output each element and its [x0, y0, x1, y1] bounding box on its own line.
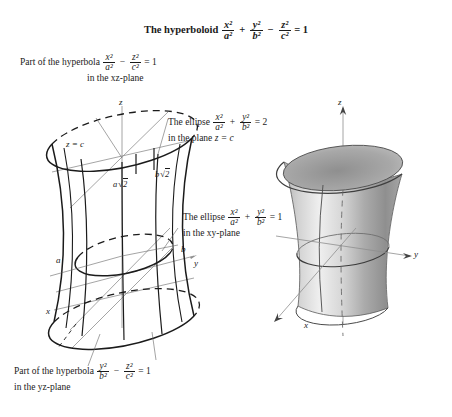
title-term2-denominator: b² [250, 31, 262, 42]
solid-y-arrowhead [403, 253, 412, 259]
title-term-y2-over-b2: y² b² [250, 20, 262, 42]
title-term3-denominator: c² [279, 31, 291, 42]
shaded-hyperboloid [276, 100, 452, 350]
callout-xz-operator: − [118, 57, 126, 67]
wireframe-semi-axis-b-label: b [181, 244, 186, 255]
leader-top-ellipse [158, 119, 168, 154]
callout-yz-term2-den: c² [124, 372, 135, 381]
callout-mid-ellipse-term2: y² b² [255, 208, 266, 228]
sqrt-icon-a: √2 [117, 178, 128, 190]
callout-top-ellipse-term2-den: b² [240, 123, 251, 132]
title-term-z2-over-c2: z² c² [279, 20, 291, 42]
wireframe-plane-z-equals-c-label: z = c [66, 139, 84, 150]
wireframe-y-axis-label: y [194, 258, 198, 269]
title-operator-1: + [238, 24, 247, 35]
figure-title: The hyperboloid x² a² + y² b² − z² c² = … [0, 20, 452, 42]
callout-xz-equals: = 1 [144, 57, 156, 67]
callout-xz-term1: x² a² [103, 53, 114, 73]
callout-xz-hyperbola: Part of the hyperbola x² a² − z² c² = 1 … [20, 53, 157, 85]
wireframe-hyperbola-right [182, 138, 194, 316]
callout-xz-plane: in the xz-plane [87, 73, 143, 83]
solid-z-axis-label: z [338, 97, 342, 108]
callout-yz-line2: in the yz-plane [14, 382, 151, 394]
leader-plane-z-equals-c [96, 118, 122, 158]
callout-xz-term1-den: a² [103, 63, 114, 72]
callout-xz-term2: z² c² [130, 53, 141, 73]
wireframe-bottom-plane-axis-1 [54, 278, 194, 310]
wireframe-hyperboloid [36, 96, 236, 356]
figure-title-prefix: The hyperboloid [144, 24, 218, 35]
b-sqrt2-radicand: 2 [165, 168, 170, 180]
wireframe-semi-axis-a-sqrt2-label: a√2 [113, 178, 128, 190]
title-operator-2: − [266, 24, 275, 35]
callout-xz-line2: in the xz-plane [20, 73, 157, 85]
wireframe-x-axis [70, 228, 170, 330]
callout-mid-ellipse-term2-den: b² [255, 218, 266, 227]
wireframe-ruling-1 [81, 159, 87, 336]
title-term-x2-over-a2: x² a² [222, 20, 234, 42]
callout-xz-prefix: Part of the hyperbola [20, 57, 100, 67]
callout-yz-plane: in the yz-plane [14, 382, 70, 392]
wireframe-mid-ellipse-back [78, 234, 173, 257]
leader-yz-hyperbola-2 [152, 332, 156, 360]
solid-y-axis-label: y [414, 249, 418, 260]
wireframe-x-axis-label: x [46, 306, 50, 317]
callout-xz-line1: Part of the hyperbola x² a² − z² c² = 1 [20, 53, 157, 73]
leader-yz-hyperbola-group [60, 330, 190, 370]
callout-yz-term1-den: b² [97, 372, 108, 381]
title-equals: = 1 [294, 24, 308, 35]
wireframe-ruling-4 [64, 148, 73, 328]
callout-mid-ellipse-operator: + [243, 212, 251, 222]
wireframe-semi-axis-b-sqrt2-label: b√2 [155, 168, 170, 180]
title-term1-denominator: a² [222, 31, 234, 42]
wireframe-z-axis-label: z [119, 97, 123, 108]
callout-top-ellipse-equals: = 2 [255, 117, 267, 127]
leader-yz-hyperbola [88, 334, 100, 366]
callout-top-ellipse-term2: y² b² [240, 113, 251, 133]
wireframe-ruling-5 [172, 144, 182, 322]
figure-canvas: The hyperboloid x² a² + y² b² − z² c² = … [0, 0, 452, 417]
sqrt-icon-b: √2 [159, 168, 170, 180]
callout-xz-term2-den: c² [130, 63, 141, 72]
wireframe-ruling-3 [156, 154, 162, 334]
a-sqrt2-radicand: 2 [123, 178, 128, 190]
wireframe-hyperbola-left [52, 144, 64, 322]
solid-x-axis-label: x [304, 320, 308, 331]
wireframe-semi-axis-a-label: a [56, 255, 61, 266]
